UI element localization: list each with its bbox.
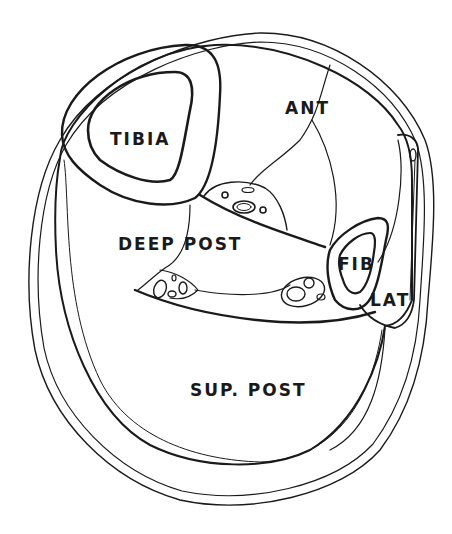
ant-septum-1 — [250, 65, 330, 185]
ant-nv-sheath — [204, 182, 287, 230]
leg-cross-section-diagram: TIBIA ANT DEEP POST FIB LAT SUP. POST — [0, 0, 452, 534]
anterior-tibial-vein-left — [222, 192, 228, 198]
label-fib: FIB — [338, 254, 375, 274]
fascia-envelope-inner — [64, 160, 382, 462]
deep-post-lower-boundary — [195, 285, 290, 295]
label-lat: LAT — [370, 290, 410, 310]
sup-post-boundary — [330, 328, 385, 450]
tibial-nerve — [179, 282, 187, 294]
anterior-tibial-vein-right — [260, 207, 266, 213]
deep-peroneal-nerve — [242, 188, 254, 193]
peroneal-nv-sheath — [278, 273, 328, 311]
transverse-septum — [135, 290, 375, 323]
diagram-canvas: TIBIA ANT DEEP POST FIB LAT SUP. POST — [0, 0, 452, 534]
label-tibia: TIBIA — [110, 129, 170, 149]
peroneal-artery — [287, 287, 305, 301]
anterior-tibial-artery — [233, 201, 255, 213]
ant-septum-2 — [312, 120, 336, 245]
small-vessel — [172, 275, 176, 281]
lateral-septum — [378, 140, 401, 262]
label-sup-post: SUP. POST — [190, 380, 307, 400]
posterior-tibial-vein — [168, 291, 176, 297]
label-deep-post: DEEP POST — [118, 234, 242, 254]
label-ant: ANT — [285, 98, 330, 118]
tibia-medulla — [88, 72, 192, 182]
peroneal-vein — [304, 278, 314, 288]
anterior-tibial-artery-lumen — [237, 204, 251, 211]
